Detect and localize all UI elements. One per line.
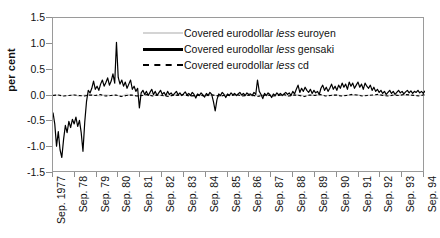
chart-figure: per cent 1.51.00.50.0-0.5-1.0-1.5 Sep. 1… [0, 0, 440, 238]
legend-label: Covered eurodollar less cd [183, 59, 309, 71]
x-tick-label: Sep. 84 [209, 176, 220, 212]
x-tick-label: Sep. 78 [78, 176, 89, 212]
legend-swatch [143, 43, 183, 55]
y-tick-label: -1.0 [0, 141, 45, 151]
x-tick-label: Sep. 83 [187, 176, 198, 212]
x-tick-label: Sep. 86 [252, 176, 263, 212]
y-tick-label: 1.0 [0, 38, 45, 48]
legend-swatch [143, 27, 183, 39]
x-tick-label: Sep. 85 [231, 176, 242, 212]
legend-label: Covered eurodollar less gensaki [183, 43, 334, 55]
x-tick-label: Sep. 89 [318, 176, 329, 212]
y-tick-label: -0.5 [0, 115, 45, 125]
legend-item: Covered eurodollar less gensaki [143, 41, 336, 57]
x-tick-label: Sep. 91 [362, 176, 373, 212]
x-tick-label: Sep. 88 [296, 176, 307, 212]
x-tick-label: Sep. 93 [405, 176, 416, 212]
x-tick-label: Sep. 92 [383, 176, 394, 212]
y-tick-label: -1.5 [0, 167, 45, 177]
legend-item: Covered eurodollar less euroyen [143, 25, 336, 41]
chart-legend: Covered eurodollar less euroyenCovered e… [143, 25, 336, 73]
x-tick-label: Sep. 1977 [56, 176, 67, 224]
x-tick-label: Sep. 94 [427, 176, 438, 212]
x-tick-label: Sep. 80 [121, 176, 132, 212]
y-tick-label: 1.5 [0, 12, 45, 22]
x-tick-label: Sep. 90 [340, 176, 351, 212]
legend-item: Covered eurodollar less cd [143, 57, 336, 73]
x-tick-label: Sep. 81 [143, 176, 154, 212]
legend-swatch [143, 59, 183, 71]
x-tick-label: Sep. 82 [165, 176, 176, 212]
y-tick-label: 0.0 [0, 90, 45, 100]
x-tick-label: Sep. 79 [100, 176, 111, 212]
legend-label: Covered eurodollar less euroyen [183, 27, 336, 39]
x-tick-label: Sep. 87 [274, 176, 285, 212]
y-tick-label: 0.5 [0, 64, 45, 74]
